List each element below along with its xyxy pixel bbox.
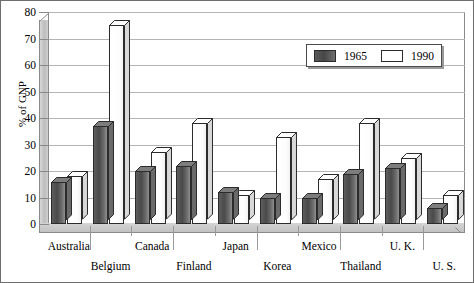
bar-us-1965 [427,208,442,224]
bar-australia-1965 [51,182,66,224]
y-axis-tick [39,224,49,225]
bar-side [442,203,447,219]
legend-swatch [314,50,336,62]
bar-face [385,168,400,224]
category-separator [131,226,132,236]
x-axis-label: Mexico [286,240,352,253]
x-axis-label: Korea [245,260,311,273]
bar-top [401,153,416,158]
y-tick-label: 50 [12,87,36,98]
bar-side [416,153,421,219]
bar-side [249,190,254,219]
bar-side [166,147,171,219]
y-tick-label: 60 [12,60,36,71]
bar-side [82,171,87,219]
x-axis-label: Australia [36,240,102,253]
bar-top [151,147,166,152]
category-separator [298,226,299,236]
bar-top [109,20,124,25]
bar-side [358,169,363,219]
bar-face [343,174,358,224]
bar-side [207,118,212,219]
legend-entry: 1990 [381,50,434,62]
bar-face [93,126,108,224]
category-separator [215,226,216,236]
y-tick-label: 0 [12,219,36,230]
bar-mexico-1965 [302,198,317,225]
bar-side [291,132,296,219]
bar-side [150,166,155,219]
bar-top [67,171,82,176]
y-tick-label: 30 [12,140,36,151]
bar-belgium-1965 [93,126,108,224]
bar-top [385,163,400,168]
bar-uk-1965 [385,168,400,224]
legend-label: 1990 [411,50,434,62]
bar-face [427,208,442,224]
bar-top [176,161,191,166]
y-tick-label: 80 [12,7,36,18]
bar-korea-1965 [260,198,275,225]
bar-side [66,177,71,219]
bar-finland-1965 [176,166,191,224]
bar-top [443,190,458,195]
bar-top [51,177,66,182]
bar-thailand-1965 [343,174,358,224]
bar-top [135,166,150,171]
bar-top [260,193,275,198]
category-separator [382,226,383,236]
bar-japan-1965 [218,192,233,224]
bar-side [458,190,463,219]
bar-top [218,187,233,192]
bar-top [318,174,333,179]
bar-side [333,174,338,219]
bar-top [93,121,108,126]
bar-face [218,192,233,224]
bar-top [359,118,374,123]
bar-face [51,182,66,224]
legend-swatch [381,50,403,62]
x-axis-label: Canada [119,240,185,253]
x-axis-label: Japan [203,240,269,253]
y-axis-tick-labels: 01020304050607080 [12,12,36,233]
y-tick-label: 40 [12,113,36,124]
bar-canada-1965 [135,171,150,224]
bar-face [302,198,317,225]
x-axis-label: Thailand [328,260,394,273]
bar-side [374,118,379,219]
bar-top [276,132,291,137]
x-axis-label: U. S. [411,260,474,273]
bar-face [260,198,275,225]
bar-side [124,20,129,219]
bar-side [400,163,405,219]
bar-side [108,121,113,219]
bar-side [233,187,238,219]
bar-face [135,171,150,224]
bar-face [176,166,191,224]
bar-side [317,193,322,220]
bar-side [275,193,280,220]
bar-top [427,203,442,208]
x-axis-label: Belgium [78,260,144,273]
legend-entry: 1965 [314,50,367,62]
bar-top [343,169,358,174]
legend: 19651990 [306,44,442,67]
bar-chart: % of GNP 01020304050607080 AustraliaBelg… [0,0,474,283]
bar-side [191,161,196,219]
legend-label: 1965 [344,50,367,62]
bar-top [192,118,207,123]
x-axis-labels: AustraliaBelgiumCanadaFinlandJapanKoreaM… [39,236,465,282]
y-tick-label: 20 [12,166,36,177]
x-axis-label: U. K. [370,240,436,253]
y-tick-label: 70 [12,34,36,45]
y-tick-label: 10 [12,193,36,204]
x-axis-label: Finland [161,260,227,273]
bar-top [302,193,317,198]
